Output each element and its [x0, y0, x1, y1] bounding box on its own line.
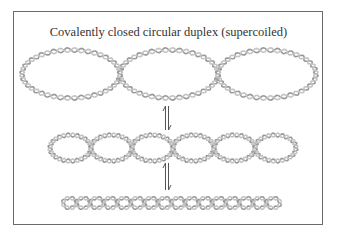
supercoil-loop: [211, 197, 227, 209]
supercoil-loop: [184, 197, 200, 209]
tightly-supercoiled-duplex: [62, 197, 281, 209]
supercoil-loop: [238, 197, 254, 209]
supercoil-loop: [265, 197, 281, 209]
supercoil-loop: [143, 197, 159, 209]
supercoil-loop: [130, 133, 175, 163]
supercoil-loop: [118, 48, 220, 100]
supercoil-loop: [130, 197, 146, 209]
supercoil-loop: [170, 197, 186, 209]
equilibrium-arrows-1: [163, 106, 171, 130]
supercoil-loop: [116, 197, 132, 209]
supercoil-loop: [89, 197, 105, 209]
supercoil-loop: [252, 197, 268, 209]
up-arrow-icon: [163, 106, 166, 130]
supercoil-loop: [216, 48, 318, 100]
supercoil-loop: [103, 197, 119, 209]
supercoil-loop: [62, 197, 78, 209]
equilibrium-arrows-2: [163, 163, 171, 190]
supercoil-loop: [89, 133, 134, 163]
supercoil-diagram: [0, 0, 337, 238]
supercoil-loop: [20, 48, 122, 100]
up-arrow-icon: [163, 163, 166, 190]
supercoil-loop: [48, 133, 93, 163]
supercoil-loop: [225, 197, 241, 209]
down-arrow-icon: [169, 106, 172, 130]
supercoil-loop: [253, 133, 298, 163]
supercoil-loop: [198, 197, 214, 209]
supercoil-loop: [157, 197, 173, 209]
intermediate-supercoiled-duplex: [48, 133, 298, 163]
supercoil-loop: [171, 133, 216, 163]
loosely-supercoiled-duplex: [20, 48, 318, 100]
down-arrow-icon: [169, 163, 172, 190]
supercoil-loop: [212, 133, 257, 163]
supercoil-loop: [75, 197, 91, 209]
